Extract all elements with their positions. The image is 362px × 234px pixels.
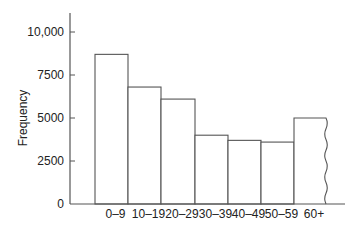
bar-60+ <box>294 118 327 204</box>
bar-10–19 <box>128 87 161 204</box>
x-category-label: 50–59 <box>265 207 299 221</box>
bar-0–9 <box>95 54 128 204</box>
x-category-label: 40–49 <box>232 207 266 221</box>
x-category-label: 0–9 <box>105 207 125 221</box>
y-axis-title: Frequency <box>16 90 30 147</box>
y-axis: 025005000750010,000 <box>27 13 75 211</box>
x-category-label: 20–29 <box>165 207 199 221</box>
x-category-label: 60+ <box>304 207 324 221</box>
y-tick-label: 5000 <box>37 111 64 125</box>
bar-50–59 <box>261 142 294 204</box>
y-tick-label: 7500 <box>37 68 64 82</box>
x-axis: 0–910–1920–2930–3940–4950–5960+ <box>70 204 345 221</box>
y-tick-label: 2500 <box>37 154 64 168</box>
bar-20–29 <box>161 99 195 204</box>
bars <box>95 54 327 204</box>
bar-30–39 <box>195 135 228 204</box>
x-category-label: 10–19 <box>132 207 166 221</box>
y-tick-label: 0 <box>57 197 64 211</box>
y-tick-label: 10,000 <box>27 25 64 39</box>
bar-40–49 <box>228 140 261 204</box>
histogram-chart: 025005000750010,000 0–910–1920–2930–3940… <box>0 0 362 234</box>
x-category-label: 30–39 <box>199 207 233 221</box>
